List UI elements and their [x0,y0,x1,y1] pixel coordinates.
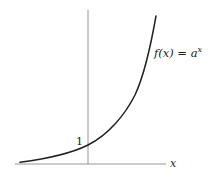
function-label: f(x) = ax [153,45,203,60]
exponential-function-diagram: 1 f(x) = ax x [0,0,213,178]
y-intercept-label: 1 [76,135,83,148]
function-label-base: f(x) = a [153,46,198,60]
x-axis-label: x [170,157,177,170]
function-label-exponent: x [198,45,203,54]
